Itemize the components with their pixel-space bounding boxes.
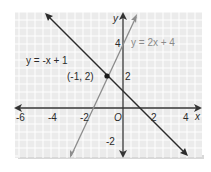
x-tick-label: 2: [151, 112, 157, 123]
y-tick-label: 4: [115, 38, 121, 49]
line-label-gray: y = 2x + 4: [131, 37, 175, 48]
line-label-dark: y = -x + 1: [26, 55, 68, 66]
y-tick-label: 2: [125, 71, 131, 82]
x-tick-label: -4: [48, 112, 57, 123]
x-tick-label: 4: [183, 112, 189, 123]
x-axis-label: x: [194, 111, 201, 122]
y-axis-label: y: [112, 13, 119, 24]
x-tick-label: -6: [16, 112, 25, 123]
x-tick-label: -2: [80, 112, 89, 123]
y-tick-label: -2: [106, 136, 115, 147]
origin-label: O: [114, 112, 122, 123]
intersection-point: [104, 73, 109, 78]
intersection-label: (-1, 2): [67, 71, 94, 82]
graph-figure: (-1, 2) y = -x + 1 y = 2x + 4 y x O -6 -…: [0, 0, 211, 172]
